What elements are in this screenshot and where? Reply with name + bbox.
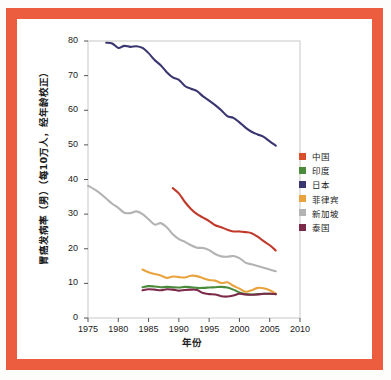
x-tick-marks — [88, 318, 300, 322]
legend-swatch-icon — [299, 153, 306, 160]
x-tick-label: 1990 — [163, 324, 195, 334]
legend-swatch-icon — [299, 209, 306, 216]
y-tick-label: 40 — [56, 174, 78, 184]
y-tick-label: 70 — [56, 70, 78, 80]
legend-swatch-icon — [299, 195, 306, 202]
legend-label: 日本 — [312, 178, 330, 190]
y-tick-label: 60 — [56, 104, 78, 114]
y-tick-label: 50 — [56, 139, 78, 149]
x-tick-label: 1980 — [102, 324, 134, 334]
chart-legend: 中国印度日本菲律宾新加坡泰国 — [299, 149, 369, 234]
legend-item[interactable]: 泰国 — [299, 220, 369, 234]
x-tick-label: 2000 — [223, 324, 255, 334]
y-tick-label: 0 — [56, 312, 78, 322]
legend-swatch-icon — [299, 224, 306, 231]
legend-swatch-icon — [299, 167, 306, 174]
legend-item[interactable]: 中国 — [299, 149, 369, 163]
y-tick-label: 80 — [56, 35, 78, 45]
line-chart: 01020304050607080 1975198019851990199520… — [17, 19, 372, 359]
x-tick-label: 1985 — [133, 324, 165, 334]
legend-label: 泰国 — [312, 221, 330, 233]
y-tick-label: 20 — [56, 243, 78, 253]
legend-label: 印度 — [312, 164, 330, 176]
y-tick-label: 30 — [56, 208, 78, 218]
legend-label: 菲律宾 — [312, 193, 339, 205]
y-axis-title: 胃癌发病率（男）（每10万人，经年龄校正） — [36, 36, 50, 296]
x-axis-title: 年份 — [77, 335, 307, 349]
x-tick-label: 1975 — [72, 324, 104, 334]
legend-item[interactable]: 印度 — [299, 163, 369, 177]
legend-swatch-icon — [299, 181, 306, 188]
legend-item[interactable]: 日本 — [299, 177, 369, 191]
legend-label: 新加坡 — [312, 207, 339, 219]
y-tick-label: 10 — [56, 277, 78, 287]
y-tick-marks — [84, 41, 88, 318]
x-tick-label: 2010 — [284, 324, 316, 334]
x-tick-label: 2005 — [254, 324, 286, 334]
legend-label: 中国 — [312, 150, 330, 162]
x-tick-label: 1995 — [193, 324, 225, 334]
legend-item[interactable]: 菲律宾 — [299, 192, 369, 206]
legend-item[interactable]: 新加坡 — [299, 206, 369, 220]
figure-root: 01020304050607080 1975198019851990199520… — [0, 0, 391, 380]
